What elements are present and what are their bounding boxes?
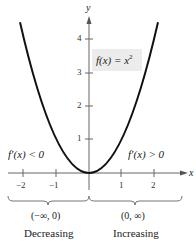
derivative-positive-label: f′(x) > 0: [128, 149, 164, 160]
x-axis-arrow-icon: [180, 171, 188, 176]
y-tick-label-1: 1: [77, 134, 82, 143]
x-tick-label-neg2: −2: [16, 181, 26, 190]
function-label-exponent: 2: [129, 53, 133, 61]
derivative-negative-label: f′(x) < 0: [8, 149, 44, 160]
y-tick-label-3: 3: [77, 68, 82, 77]
x-tick-label-neg1: −1: [49, 181, 59, 190]
x-tick-label-2: 2: [151, 181, 156, 190]
plot-canvas: [0, 0, 196, 244]
y-axis-arrow-icon: [87, 16, 92, 24]
x-axis-label: x: [189, 168, 193, 178]
y-axis-label: y: [86, 3, 90, 13]
brace-decreasing: [8, 196, 89, 205]
interval-right-label: (0, ∞): [121, 211, 145, 221]
y-tick-label-4: 4: [77, 34, 82, 43]
interval-left-label: (−∞, 0): [31, 211, 60, 221]
y-tick-label-2: 2: [77, 101, 82, 110]
figure: y x 1 2 3 4 −2 −1 1 2 f(x) = x2 f′(x) < …: [0, 0, 196, 244]
increasing-label: Increasing: [113, 228, 159, 239]
function-label: f(x) = x2: [96, 54, 133, 66]
decreasing-label: Decreasing: [24, 228, 73, 239]
x-tick-label-1: 1: [119, 181, 124, 190]
brace-increasing: [89, 196, 182, 205]
function-label-text: f(x) = x: [96, 54, 129, 66]
